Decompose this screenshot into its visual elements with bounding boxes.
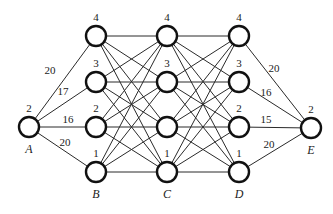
edge-weight-label: 15 xyxy=(261,113,273,125)
node-value-label: 2 xyxy=(93,102,99,114)
edge-weight-label: 20 xyxy=(45,64,57,76)
node-d2 xyxy=(229,117,249,137)
stage-name-label: A xyxy=(24,142,33,156)
node-value-label: 2 xyxy=(236,102,242,114)
edge-d1-e xyxy=(239,128,311,172)
layered-graph-diagram: 2017162020161520 2A4321B431C4321D2E xyxy=(0,0,333,214)
node-b2 xyxy=(86,117,106,137)
node-value-label: 3 xyxy=(164,57,170,69)
node-value-label: 4 xyxy=(164,11,170,23)
node-b4 xyxy=(86,26,106,46)
node-value-label: 1 xyxy=(93,147,99,159)
stage-name-label: E xyxy=(306,143,315,157)
edge-a-b1 xyxy=(29,127,96,172)
node-a xyxy=(19,117,39,137)
edge-weight-label: 16 xyxy=(261,86,273,98)
edge-weight-label: 20 xyxy=(269,62,281,74)
edge-weight-label: 20 xyxy=(60,136,72,148)
stage-name-label: B xyxy=(92,187,100,201)
node-c2 xyxy=(157,117,177,137)
node-value-label: 4 xyxy=(236,11,242,23)
node-e xyxy=(301,118,321,138)
node-value-label: 3 xyxy=(93,57,99,69)
node-value-label: 1 xyxy=(164,147,170,159)
node-d3 xyxy=(229,72,249,92)
node-value-label: 2 xyxy=(308,103,314,115)
node-value-label: 2 xyxy=(26,102,32,114)
node-c1 xyxy=(157,162,177,182)
node-c3 xyxy=(157,72,177,92)
node-value-label: 3 xyxy=(236,57,242,69)
edge-weight-label: 17 xyxy=(58,85,70,97)
node-b1 xyxy=(86,162,106,182)
edge-weight-label: 20 xyxy=(264,138,276,150)
node-b3 xyxy=(86,72,106,92)
stage-name-label: C xyxy=(163,187,172,201)
node-d1 xyxy=(229,162,249,182)
node-d4 xyxy=(229,26,249,46)
node-value-label: 4 xyxy=(93,11,99,23)
edge-d3-e xyxy=(239,82,311,128)
node-c4 xyxy=(157,26,177,46)
node-value-label: 1 xyxy=(236,147,242,159)
edge-weight-label: 16 xyxy=(63,113,75,125)
stage-name-label: D xyxy=(234,187,244,201)
edges-layer xyxy=(29,36,311,172)
